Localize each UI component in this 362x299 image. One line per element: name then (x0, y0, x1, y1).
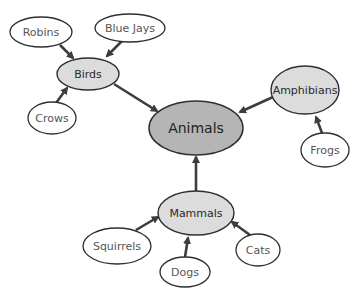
edge-squirrels-mammals (136, 217, 158, 230)
node-dogs: Dogs (160, 257, 210, 287)
node-label: Robins (23, 26, 60, 39)
edge-birds-animals (114, 84, 157, 111)
node-label: Dogs (171, 266, 199, 279)
edge-amphibians-animals (240, 97, 273, 112)
edge-dogs-mammals (185, 238, 188, 257)
edge-bluejays-birds (107, 41, 122, 56)
node-squirrels: Squirrels (83, 228, 151, 264)
edge-cats-mammals (232, 222, 250, 235)
node-crows: Crows (28, 102, 76, 134)
node-animals: Animals (149, 101, 243, 155)
edge-crows-birds (56, 88, 67, 103)
node-label: Cats (246, 244, 271, 257)
node-robins: Robins (10, 17, 72, 47)
node-label: Squirrels (93, 240, 141, 253)
node-label: Blue Jays (105, 22, 155, 35)
node-label: Frogs (310, 144, 340, 157)
node-mammals: Mammals (158, 191, 234, 235)
node-label: Amphibians (273, 84, 338, 97)
node-amphibians: Amphibians (271, 66, 339, 114)
node-label: Mammals (169, 207, 222, 220)
node-label: Crows (35, 112, 69, 125)
animal-concept-map: Animals Birds Amphibians Mammals Robins … (0, 0, 362, 299)
node-blue-jays: Blue Jays (95, 14, 165, 42)
edge-frogs-amphibians (316, 117, 322, 133)
node-birds: Birds (57, 58, 119, 90)
node-frogs: Frogs (301, 133, 349, 167)
node-label: Birds (74, 68, 102, 81)
edge-robins-birds (60, 45, 73, 58)
node-label: Animals (168, 120, 224, 136)
node-cats: Cats (236, 234, 280, 266)
